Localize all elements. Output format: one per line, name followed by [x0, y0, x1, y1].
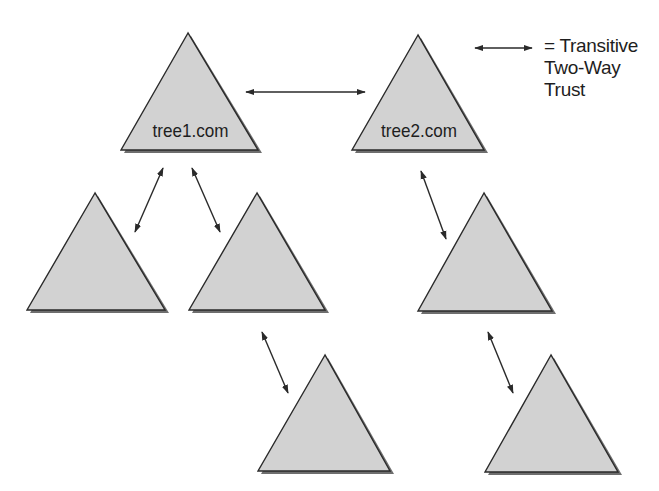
legend-line-2: Two-Way	[544, 57, 638, 79]
trust-arrow-icon	[421, 171, 446, 239]
legend-line-3: Trust	[544, 79, 638, 101]
trust-arrow-icon	[262, 332, 288, 393]
trust-arrow-icon	[192, 168, 220, 232]
domain-tree-t1c2c1	[258, 355, 394, 474]
domain-tree-tree2: tree2.com	[352, 35, 488, 153]
domain-tree-tree1: tree1.com	[121, 33, 262, 153]
legend-line-1: = Transitive	[544, 35, 638, 57]
tree-triangle-icon	[418, 193, 552, 311]
domain-tree-t2c1	[418, 193, 556, 314]
tree-label: tree1.com	[153, 120, 229, 141]
legend: = Transitive Two-Way Trust	[544, 35, 638, 101]
trust-arrow-icon	[488, 332, 513, 393]
tree-label: tree2.com	[381, 120, 457, 141]
domain-tree-t1c2	[189, 193, 329, 313]
domain-tree-t1c1	[27, 193, 169, 313]
tree-triangle-icon	[258, 355, 390, 471]
domain-trees: tree1.comtree2.com	[27, 33, 622, 475]
tree-triangle-icon	[189, 193, 325, 310]
trust-arrow-icon	[135, 168, 163, 232]
